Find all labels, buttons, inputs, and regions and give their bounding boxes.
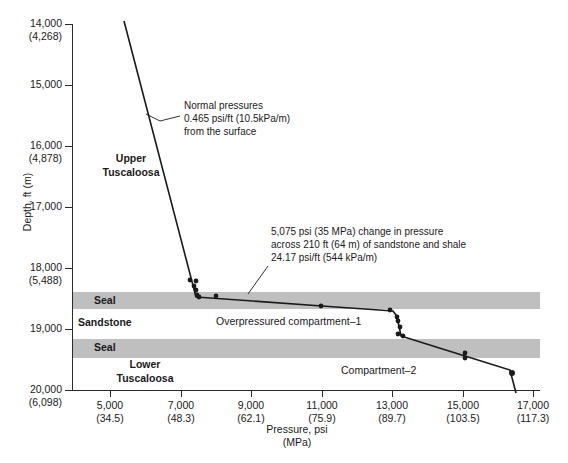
normal-pressure-annotation: Normal pressures 0.465 psi/ft (10.5kPa/m…: [184, 99, 290, 138]
y-tick-m-20000: (6,098): [0, 396, 62, 409]
lower-tuscaloosa-label: Lower Tuscaloosa: [93, 358, 197, 385]
x-axis-title-line2: (MPa): [232, 436, 362, 449]
y-tick-label-14000: 14,000 (4,268): [0, 17, 62, 42]
upper-tuscaloosa-line2: Tuscaloosa: [79, 166, 183, 180]
x-axis-title: Pressure, psi (MPa): [232, 423, 362, 449]
pressure-change-line2: across 210 ft (64 m) of sandstone and sh…: [271, 238, 466, 251]
lower-tuscaloosa-line1: Lower: [93, 358, 197, 372]
y-tick-label-18000: 18,000 (5,488): [0, 261, 62, 286]
x-tick-psi-11000: 11,000: [287, 399, 357, 412]
x-tick-mpa-17000: (117.3): [498, 412, 568, 425]
y-tick-label-20000: 20,000 (6,098): [0, 383, 62, 408]
x-tick-label-5000: 5,000 (34.5): [75, 399, 145, 425]
x-tick-mpa-15000: (103.5): [428, 412, 498, 425]
leader-line-normal-pressure: [146, 114, 180, 121]
x-tick-label-15000: 15,000 (103.5): [428, 399, 498, 425]
pressure-change-annotation: 5,075 psi (35 MPa) change in pressure ac…: [271, 225, 466, 264]
y-tick-19000: [65, 329, 73, 330]
x-tick-label-17000: 17,000 (117.3): [498, 399, 568, 425]
x-tick-7000: [181, 390, 182, 397]
y-tick-m-14000: (4,268): [0, 30, 62, 43]
x-tick-psi-17000: 17,000: [498, 399, 568, 412]
normal-pressure-line2: 0.465 psi/ft (10.5kPa/m): [184, 112, 290, 125]
y-tick-ft-18000: 18,000: [0, 261, 62, 274]
x-axis-line: [72, 390, 540, 391]
x-tick-psi-7000: 7,000: [146, 399, 216, 412]
y-tick-14000: [65, 24, 73, 25]
x-tick-11000: [322, 390, 323, 397]
x-axis-title-line1: Pressure, psi: [232, 423, 362, 436]
sandstone-label: Sandstone: [78, 316, 132, 328]
pressure-change-line1: 5,075 psi (35 MPa) change in pressure: [271, 225, 466, 238]
leader-line-pressure-change: [248, 266, 268, 294]
x-tick-psi-13000: 13,000: [357, 399, 427, 412]
x-tick-psi-9000: 9,000: [216, 399, 286, 412]
x-tick-mpa-13000: (89.7): [357, 412, 427, 425]
pressure-depth-chart: Seal Sandstone Seal Overpressured compar…: [0, 0, 568, 463]
x-tick-15000: [463, 390, 464, 397]
y-tick-ft-15000: 15,000: [0, 78, 62, 91]
compartment-1-label: Overpressured compartment–1: [216, 315, 361, 327]
y-tick-17000: [65, 207, 73, 208]
y-tick-ft-14000: 14,000: [0, 17, 62, 30]
x-tick-label-9000: 9,000 (62.1): [216, 399, 286, 425]
y-tick-label-15000: 15,000: [0, 78, 62, 91]
x-tick-13000: [392, 390, 393, 397]
x-tick-mpa-7000: (48.3): [146, 412, 216, 425]
pressure-profile-line: [124, 21, 516, 393]
upper-tuscaloosa-label: Upper Tuscaloosa: [79, 152, 183, 179]
y-tick-16000: [65, 146, 73, 147]
y-tick-20000: [65, 390, 73, 391]
seal-label-lower: Seal: [94, 341, 116, 353]
y-tick-label-19000: 19,000: [0, 322, 62, 335]
normal-pressure-line3: from the surface: [184, 125, 290, 138]
normal-pressure-line1: Normal pressures: [184, 99, 290, 112]
lower-tuscaloosa-line2: Tuscaloosa: [93, 372, 197, 386]
y-axis-title: Depth, ft (m): [21, 147, 33, 257]
y-tick-m-18000: (5,488): [0, 274, 62, 287]
seal-band-upper: [73, 292, 540, 309]
y-tick-18000: [65, 268, 73, 269]
x-tick-label-7000: 7,000 (48.3): [146, 399, 216, 425]
x-tick-mpa-5000: (34.5): [75, 412, 145, 425]
x-tick-label-13000: 13,000 (89.7): [357, 399, 427, 425]
y-tick-ft-19000: 19,000: [0, 322, 62, 335]
x-tick-9000: [251, 390, 252, 397]
x-tick-psi-5000: 5,000: [75, 399, 145, 412]
pressure-change-line3: 24.17 psi/ft (544 kPa/m): [271, 251, 466, 264]
seal-label-upper: Seal: [94, 294, 116, 306]
y-tick-ft-20000: 20,000: [0, 383, 62, 396]
x-tick-5000: [110, 390, 111, 397]
upper-tuscaloosa-line1: Upper: [79, 152, 183, 166]
x-tick-17000: [533, 390, 534, 397]
x-tick-psi-15000: 15,000: [428, 399, 498, 412]
x-tick-label-11000: 11,000 (75.9): [287, 399, 357, 425]
compartment-2-label: Compartment–2: [341, 364, 416, 376]
seal-band-lower: [73, 339, 540, 358]
y-tick-15000: [65, 85, 73, 86]
